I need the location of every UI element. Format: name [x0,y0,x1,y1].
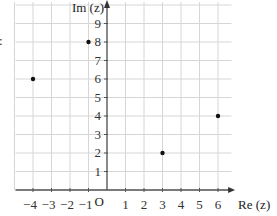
clipped-label-fragment: : [0,33,3,48]
y-tick-label: 2 [95,145,102,160]
y-axis-label: Im (z) [72,0,104,15]
x-tick-label: 2 [141,197,148,212]
argand-diagram: −4−3−2−1123456123456789ORe (z)Im (z): [0,0,277,216]
y-tick-label: 8 [95,34,102,49]
x-tick-label: −1 [79,197,93,212]
x-tick-label: 4 [178,197,185,212]
x-axis-label: Re (z) [238,197,270,212]
y-tick-label: 5 [95,90,102,105]
x-tick-label: 1 [122,197,129,212]
y-tick-label: 9 [95,16,102,31]
data-point [160,151,164,155]
origin-label: O [95,194,104,209]
x-tick-label: 3 [159,197,166,212]
y-tick-label: 3 [95,127,102,142]
data-point [216,114,220,118]
x-tick-label: −2 [60,197,74,212]
data-point [31,77,35,81]
y-axis-arrow-icon [104,0,110,8]
x-tick-label: 5 [196,197,203,212]
y-tick-label: 7 [95,53,102,68]
y-tick-label: 6 [95,71,102,86]
x-tick-label: −3 [42,197,56,212]
y-tick-label: 1 [95,164,102,179]
x-tick-label: 6 [215,197,222,212]
data-point [86,40,90,44]
x-tick-label: −4 [23,197,37,212]
y-tick-label: 4 [95,108,102,123]
x-axis-arrow-icon [228,187,235,193]
